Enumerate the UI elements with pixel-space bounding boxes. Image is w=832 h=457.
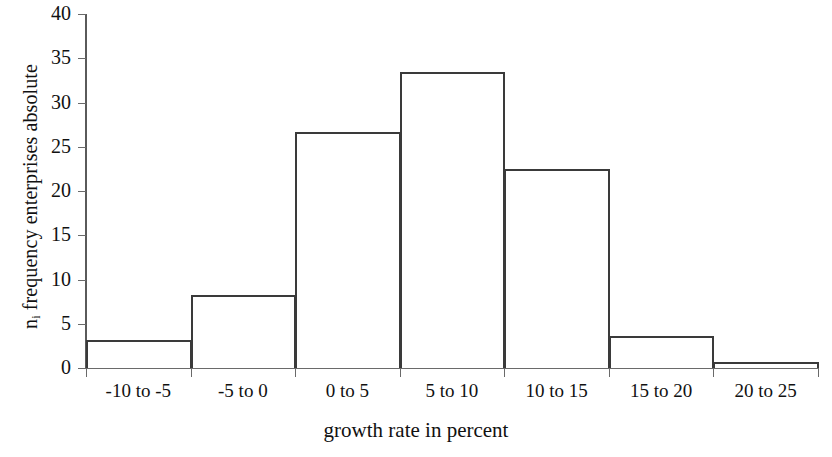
y-axis-tick: 10: [78, 280, 86, 281]
y-axis-tick: 15: [78, 235, 86, 236]
y-axis-tick-label: 0: [27, 356, 71, 378]
x-axis-tick: [713, 368, 714, 377]
y-axis-tick: 25: [78, 147, 86, 148]
x-axis-category-label: 5 to 10: [400, 378, 505, 404]
x-axis-category-label: 15 to 20: [609, 378, 714, 404]
y-axis-tick-label: 20: [27, 179, 71, 201]
y-axis-tick-label: 5: [27, 312, 71, 334]
x-axis-category-label: -5 to 0: [191, 378, 296, 404]
bar: [713, 362, 819, 368]
x-axis-tick: [295, 368, 296, 377]
bar: [609, 336, 714, 368]
x-axis-tick: [504, 368, 505, 377]
x-axis-tick: [818, 368, 819, 377]
x-axis-title: growth rate in percent: [0, 418, 832, 443]
y-axis-tick-label: 30: [27, 91, 71, 113]
x-axis-category-label: 20 to 25: [713, 378, 818, 404]
bar: [400, 72, 505, 368]
x-axis-labels: -10 to -5-5 to 00 to 55 to 1010 to 1515 …: [86, 378, 818, 408]
x-axis-tick: [191, 368, 192, 377]
bar: [191, 295, 296, 368]
y-axis-tick: 0: [78, 368, 86, 369]
histogram-chart: ni frequency enterprises absolute 051015…: [0, 0, 832, 457]
bar: [504, 169, 610, 368]
x-axis-category-label: 10 to 15: [504, 378, 609, 404]
y-axis-tick-label: 35: [27, 46, 71, 68]
y-axis-tick-label: 15: [27, 223, 71, 245]
y-axis-tick: 35: [78, 58, 86, 59]
y-axis-tick-label: 25: [27, 135, 71, 157]
x-axis-line: [78, 368, 818, 369]
y-axis-tick: 40: [78, 14, 86, 15]
y-axis-tick: 5: [78, 324, 86, 325]
x-axis-tick: [86, 368, 87, 377]
plot-area: 0510152025303540: [86, 14, 818, 368]
bar: [86, 340, 192, 368]
x-axis-category-label: 0 to 5: [295, 378, 400, 404]
y-axis-tick: 30: [78, 103, 86, 104]
x-axis-tick: [609, 368, 610, 377]
y-axis-tick: 20: [78, 191, 86, 192]
x-axis-tick: [400, 368, 401, 377]
bar: [295, 132, 401, 368]
y-axis-tick-label: 10: [27, 268, 71, 290]
y-axis-tick-label: 40: [27, 2, 71, 24]
x-axis-category-label: -10 to -5: [86, 378, 191, 404]
